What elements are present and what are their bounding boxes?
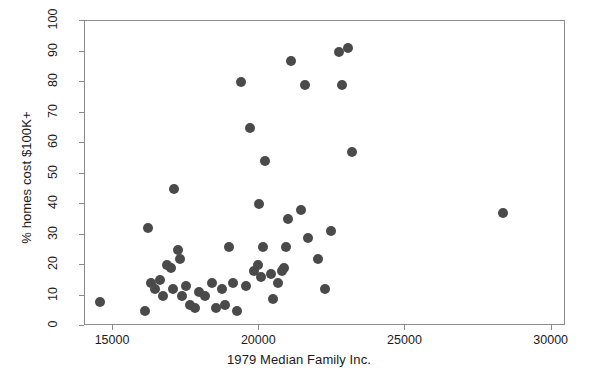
scatter-point bbox=[155, 275, 165, 285]
scatter-point bbox=[313, 254, 323, 264]
scatter-point bbox=[326, 226, 336, 236]
x-axis-tick-label: 15000 bbox=[72, 333, 152, 347]
scatter-point bbox=[168, 284, 178, 294]
y-axis-tick bbox=[79, 142, 84, 143]
scatter-point bbox=[253, 260, 263, 270]
scatter-point bbox=[181, 281, 191, 291]
scatter-point bbox=[266, 269, 276, 279]
scatter-point bbox=[236, 77, 246, 87]
scatter-point bbox=[190, 303, 200, 313]
x-axis-tick bbox=[551, 325, 552, 330]
scatter-point bbox=[200, 291, 210, 301]
scatter-point bbox=[337, 80, 347, 90]
scatter-point bbox=[241, 281, 251, 291]
scatter-point bbox=[224, 242, 234, 252]
scatter-point bbox=[220, 300, 230, 310]
scatter-chart-figure: 1979 Median Family Inc. % homes cost $10… bbox=[0, 0, 598, 381]
scatter-point bbox=[256, 272, 266, 282]
scatter-point bbox=[228, 278, 238, 288]
scatter-point bbox=[217, 284, 227, 294]
scatter-point bbox=[166, 263, 176, 273]
scatter-point bbox=[177, 291, 187, 301]
scatter-point bbox=[286, 56, 296, 66]
y-axis-tick bbox=[79, 20, 84, 21]
y-axis-tick bbox=[79, 295, 84, 296]
scatter-point bbox=[281, 242, 291, 252]
scatter-point bbox=[140, 306, 150, 316]
x-axis-tick bbox=[258, 325, 259, 330]
y-axis-tick bbox=[79, 81, 84, 82]
y-axis-tick bbox=[79, 112, 84, 113]
y-axis-tick bbox=[79, 325, 84, 326]
scatter-point bbox=[207, 278, 217, 288]
scatter-point bbox=[268, 294, 278, 304]
scatter-point bbox=[158, 291, 168, 301]
scatter-point bbox=[498, 208, 508, 218]
scatter-point bbox=[254, 199, 264, 209]
scatter-point bbox=[320, 284, 330, 294]
scatter-point bbox=[347, 147, 357, 157]
scatter-point bbox=[296, 205, 306, 215]
x-axis-tick-label: 20000 bbox=[218, 333, 298, 347]
scatter-point bbox=[175, 254, 185, 264]
scatter-point bbox=[260, 156, 270, 166]
y-axis-tick-label: 100 bbox=[46, 0, 60, 39]
x-axis-tick bbox=[404, 325, 405, 330]
y-axis-tick bbox=[79, 51, 84, 52]
x-axis-tick-label: 30000 bbox=[511, 333, 591, 347]
y-axis-tick bbox=[79, 234, 84, 235]
scatter-point bbox=[300, 80, 310, 90]
scatter-point bbox=[303, 233, 313, 243]
y-axis-title: % homes cost $100K+ bbox=[19, 48, 34, 308]
y-axis-tick bbox=[79, 264, 84, 265]
scatter-point bbox=[169, 184, 179, 194]
x-axis-title: 1979 Median Family Inc. bbox=[0, 352, 598, 367]
scatter-point bbox=[273, 278, 283, 288]
scatter-point bbox=[283, 214, 293, 224]
scatter-point bbox=[232, 306, 242, 316]
plot-area bbox=[84, 20, 565, 325]
scatter-point bbox=[95, 297, 105, 307]
y-axis-tick bbox=[79, 203, 84, 204]
x-axis-tick-label: 25000 bbox=[364, 333, 444, 347]
scatter-point bbox=[279, 263, 289, 273]
scatter-point bbox=[245, 123, 255, 133]
scatter-point bbox=[343, 43, 353, 53]
x-axis-tick bbox=[112, 325, 113, 330]
scatter-point bbox=[258, 242, 268, 252]
scatter-point bbox=[143, 223, 153, 233]
y-axis-tick bbox=[79, 173, 84, 174]
